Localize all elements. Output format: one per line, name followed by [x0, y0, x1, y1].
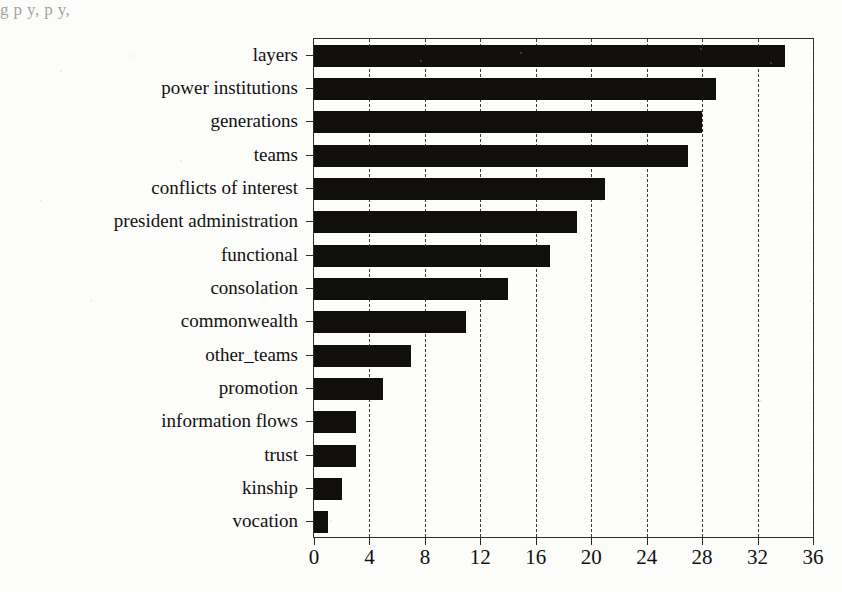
- x-tick-label: 28: [692, 545, 713, 570]
- y-tick-mark: [306, 388, 313, 389]
- x-tick-mark: [647, 538, 648, 545]
- y-tick-mark: [306, 221, 313, 222]
- page-top-partial-text: g p y, p y,: [0, 0, 842, 22]
- x-tick-label: 32: [747, 545, 768, 570]
- x-tick-mark: [813, 538, 814, 545]
- scan-speckle: [600, 200, 602, 202]
- gridline: [813, 39, 814, 537]
- x-tick-label: 8: [420, 545, 431, 570]
- y-tick-mark: [306, 521, 313, 522]
- category-label: other_teams: [205, 344, 298, 366]
- x-axis-tick-labels: 04812162024283236: [0, 545, 842, 575]
- bar: [314, 178, 605, 200]
- scan-speckle: [520, 52, 522, 54]
- y-tick-mark: [306, 155, 313, 156]
- plot-area: [313, 38, 814, 538]
- y-axis-ticks: [306, 38, 314, 538]
- x-tick-mark: [480, 538, 481, 545]
- category-label: generations: [210, 110, 298, 132]
- y-tick-mark: [306, 288, 313, 289]
- scan-speckle: [250, 480, 252, 482]
- y-tick-mark: [306, 355, 313, 356]
- category-label: president administration: [114, 210, 298, 232]
- bar: [314, 45, 785, 67]
- x-tick-label: 36: [803, 545, 824, 570]
- y-tick-mark: [306, 55, 313, 56]
- bar: [314, 111, 702, 133]
- scan-speckle: [180, 160, 182, 162]
- category-label: power institutions: [161, 77, 298, 99]
- category-label: information flows: [161, 410, 298, 432]
- scan-speckle: [130, 55, 132, 57]
- y-tick-mark: [306, 88, 313, 89]
- x-tick-label: 20: [581, 545, 602, 570]
- y-tick-mark: [306, 488, 313, 489]
- scan-speckle: [330, 520, 332, 522]
- y-tick-mark: [306, 255, 313, 256]
- y-tick-mark: [306, 188, 313, 189]
- y-tick-mark: [306, 421, 313, 422]
- bar: [314, 345, 411, 367]
- category-label: promotion: [219, 377, 298, 399]
- scan-speckle: [760, 400, 762, 402]
- y-tick-mark: [306, 321, 313, 322]
- category-label: conflicts of interest: [151, 177, 298, 199]
- category-label: layers: [253, 44, 298, 66]
- category-label: commonwealth: [181, 310, 298, 332]
- x-tick-label: 24: [636, 545, 657, 570]
- bar: [314, 211, 577, 233]
- bar: [314, 145, 688, 167]
- gridline: [702, 39, 703, 537]
- scan-speckle: [810, 300, 812, 302]
- x-tick-label: 0: [309, 545, 320, 570]
- scan-speckle: [90, 300, 92, 302]
- bar: [314, 378, 383, 400]
- x-tick-mark: [369, 538, 370, 545]
- x-tick-mark: [425, 538, 426, 545]
- scan-speckle: [420, 60, 422, 62]
- bar: [314, 78, 716, 100]
- category-label: teams: [254, 144, 298, 166]
- scan-speckle: [60, 70, 62, 72]
- scan-speckle: [700, 48, 702, 50]
- bar: [314, 278, 508, 300]
- y-tick-mark: [306, 121, 313, 122]
- scan-speckle: [40, 200, 42, 202]
- bar: [314, 411, 356, 433]
- bar: [314, 311, 466, 333]
- chart-figure: g p y, p y, layerspower institutionsgene…: [0, 0, 842, 592]
- scan-speckle: [770, 62, 772, 64]
- x-tick-mark: [702, 538, 703, 545]
- x-tick-mark: [314, 538, 315, 545]
- x-tick-label: 4: [364, 545, 375, 570]
- bar: [314, 445, 356, 467]
- scan-speckle: [640, 470, 642, 472]
- category-label: consolation: [210, 277, 298, 299]
- x-tick-mark: [536, 538, 537, 545]
- x-tick-mark: [591, 538, 592, 545]
- bar: [314, 511, 328, 533]
- category-labels-column: layerspower institutionsgenerationsteams…: [0, 38, 306, 538]
- x-tick-label: 12: [470, 545, 491, 570]
- category-label: functional: [221, 244, 298, 266]
- gridline: [758, 39, 759, 537]
- category-label: trust: [264, 444, 298, 466]
- x-tick-label: 16: [525, 545, 546, 570]
- category-label: vocation: [233, 510, 298, 532]
- y-tick-mark: [306, 455, 313, 456]
- bar: [314, 478, 342, 500]
- x-tick-mark: [758, 538, 759, 545]
- bar: [314, 245, 550, 267]
